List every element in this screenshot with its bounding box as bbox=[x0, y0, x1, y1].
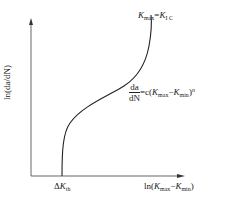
y-axis-label: ln(da/dN) bbox=[3, 65, 12, 100]
equation-fraction: da dN bbox=[129, 82, 140, 103]
paris-law-equation: da dN =c(Kmax−Kmin)n bbox=[129, 82, 195, 103]
y-axis-arrow-icon bbox=[29, 18, 33, 25]
x-axis-label: ln(Kmax−Kmin) bbox=[144, 182, 194, 192]
fraction-numerator: da bbox=[129, 82, 140, 93]
x-axis-arrow-icon bbox=[177, 174, 185, 178]
threshold-label: ΔKth bbox=[54, 182, 70, 192]
upper-limit-label: Kmax=KI C bbox=[138, 11, 173, 21]
diagram-canvas bbox=[0, 0, 233, 204]
fraction-denominator: dN bbox=[129, 93, 140, 103]
